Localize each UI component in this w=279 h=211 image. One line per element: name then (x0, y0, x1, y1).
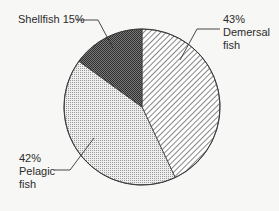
pie-slices (64, 29, 220, 185)
label-pelagic-pct: 42% (19, 152, 55, 165)
label-shellfish: Shellfish 15% (18, 13, 85, 26)
label-shellfish-text: Shellfish 15% (18, 13, 85, 26)
label-pelagic-line1: Pelagic (19, 165, 55, 178)
label-pelagic: 42% Pelagic fish (19, 152, 55, 191)
label-demersal-line2: fish (223, 39, 270, 52)
label-demersal-line1: Demersal (223, 26, 270, 39)
label-demersal-pct: 43% (223, 13, 270, 26)
label-demersal: 43% Demersal fish (223, 13, 270, 52)
label-pelagic-line2: fish (19, 178, 55, 191)
